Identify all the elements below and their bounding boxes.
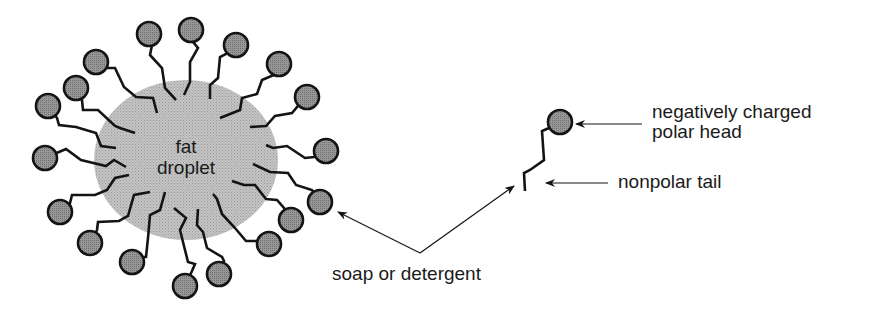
nonpolar-tail-label: nonpolar tail — [618, 172, 722, 192]
fat-droplet-label-line2: droplet — [126, 157, 246, 178]
single-soap-molecule — [524, 110, 572, 191]
fat-droplet-label: fat droplet — [126, 136, 246, 178]
polar-head — [548, 110, 572, 134]
polar-head — [207, 262, 231, 286]
polar-head-label-line1: negatively charged — [652, 102, 812, 122]
polar-head — [120, 250, 144, 274]
label-arrows — [338, 124, 642, 253]
polar-head — [78, 231, 102, 255]
polar-head — [137, 22, 161, 46]
polar-head — [295, 85, 319, 109]
soap-arrow-left — [338, 212, 420, 253]
polar-head — [267, 52, 291, 76]
polar-head — [48, 200, 72, 224]
soap-molecule — [524, 110, 572, 191]
polar-head-label: negatively charged polar head — [652, 102, 812, 142]
polar-head — [279, 208, 303, 232]
polar-head — [179, 18, 203, 42]
polar-head — [314, 139, 338, 163]
polar-head — [224, 33, 248, 57]
fat-droplet-label-line1: fat — [126, 136, 246, 157]
polar-head — [257, 232, 281, 256]
polar-head — [36, 94, 60, 118]
polar-head-label-line2: polar head — [652, 122, 812, 142]
soap-or-detergent-label: soap or detergent — [332, 264, 481, 284]
soap-arrow-right — [420, 186, 514, 253]
polar-head — [33, 146, 57, 170]
polar-head — [64, 76, 88, 100]
polar-head — [84, 50, 108, 74]
polar-head — [308, 190, 332, 214]
polar-head — [173, 274, 197, 298]
